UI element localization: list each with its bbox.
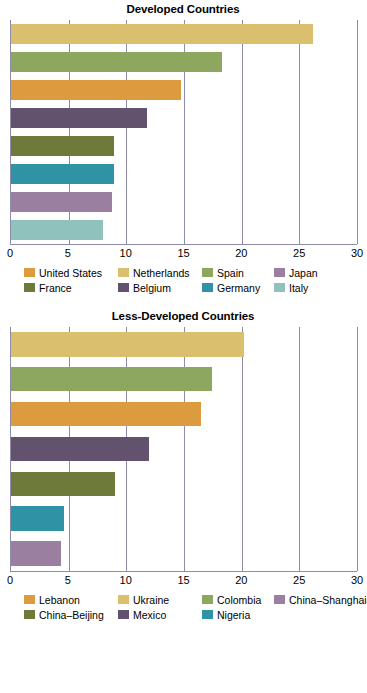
legend-swatch-icon (274, 283, 285, 292)
panel-spacer (0, 295, 366, 307)
legend-item-ukraine[interactable]: Ukraine (118, 594, 169, 606)
bar-japan (11, 108, 147, 128)
legend-swatch-icon (202, 595, 213, 604)
legend-label: Colombia (217, 594, 261, 606)
bar-series-developed (11, 20, 357, 244)
bar-colombia (11, 367, 212, 391)
bar-belgium (11, 192, 112, 212)
legend-label: Spain (217, 267, 244, 279)
bar-series-less-developed (11, 327, 357, 571)
legend-item-lebanon[interactable]: Lebanon (24, 594, 80, 606)
legend-item-united-states[interactable]: United States (24, 267, 102, 279)
x-tick-label: 20 (235, 246, 247, 260)
x-tick-label: 0 (7, 246, 13, 260)
legend-swatch-icon (202, 268, 213, 277)
legend-swatch-icon (24, 268, 35, 277)
legend-item-italy[interactable]: Italy (274, 282, 308, 294)
legend-row: FranceBelgiumGermanyItaly (24, 280, 360, 295)
legend-item-mexico[interactable]: Mexico (118, 609, 166, 621)
legend-item-nigeria[interactable]: Nigeria (202, 609, 250, 621)
legend-swatch-icon (202, 610, 213, 619)
legend-item-netherlands[interactable]: Netherlands (118, 267, 190, 279)
bar-ukraine (11, 332, 244, 356)
plot-canvas-developed (10, 20, 357, 244)
legend-item-japan[interactable]: Japan (274, 267, 318, 279)
bar-spain (11, 52, 222, 72)
legend-swatch-icon (202, 283, 213, 292)
legend-label: China–Shanghai (289, 594, 367, 606)
x-tick-label: 25 (293, 246, 305, 260)
legend-swatch-icon (274, 595, 285, 604)
chart-title-less-developed: Less-Developed Countries (0, 307, 366, 327)
bar-italy (11, 220, 103, 240)
legend-item-china-shanghai[interactable]: China–Shanghai (274, 594, 367, 606)
legend-item-spain[interactable]: Spain (202, 267, 244, 279)
bar-row (11, 536, 357, 571)
legend-label: Belgium (133, 282, 171, 294)
bar-row (11, 397, 357, 432)
legend-item-germany[interactable]: Germany (202, 282, 260, 294)
plot-area-developed (10, 20, 357, 244)
legend-swatch-icon (118, 595, 129, 604)
legend-label: France (39, 282, 72, 294)
legend-developed: United StatesNetherlandsSpainJapanFrance… (0, 265, 366, 295)
plot-canvas-less-developed (10, 327, 357, 571)
legend-swatch-icon (24, 610, 35, 619)
legend-label: China–Beijing (39, 609, 104, 621)
x-tick-label: 25 (293, 573, 305, 587)
x-tick-label: 15 (177, 246, 189, 260)
x-tick-label: 10 (120, 246, 132, 260)
x-tick-label: 15 (177, 573, 189, 587)
bar-row (11, 20, 357, 48)
bar-france (11, 136, 114, 156)
legend-label: Nigeria (217, 609, 250, 621)
gridline (357, 20, 358, 244)
x-axis-labels-less-developed: 051015202530 (10, 572, 357, 589)
legend-label: Netherlands (133, 267, 190, 279)
gridline (357, 327, 358, 571)
legend-item-china-beijing[interactable]: China–Beijing (24, 609, 104, 621)
x-tick-label: 30 (351, 573, 363, 587)
legend-label: Lebanon (39, 594, 80, 606)
x-tick-label: 5 (65, 573, 71, 587)
bar-china-shanghai (11, 541, 61, 565)
chart-title-developed: Developed Countries (0, 0, 366, 20)
bar-germany (11, 164, 114, 184)
legend-row: China–BeijingMexicoNigeria (24, 607, 360, 622)
chart-panel-less-developed: Less-Developed Countries 051015202530 Le… (0, 307, 366, 622)
plot-area-less-developed (10, 327, 357, 571)
legend-label: Mexico (133, 609, 166, 621)
bar-row (11, 48, 357, 76)
bar-row (11, 188, 357, 216)
bar-row (11, 160, 357, 188)
bar-row (11, 216, 357, 244)
legend-item-colombia[interactable]: Colombia (202, 594, 261, 606)
bar-china-beijing (11, 472, 115, 496)
legend-item-belgium[interactable]: Belgium (118, 282, 171, 294)
bar-nigeria (11, 506, 64, 530)
legend-label: United States (39, 267, 102, 279)
legend-label: Italy (289, 282, 308, 294)
bar-netherlands (11, 24, 313, 44)
bar-row (11, 432, 357, 467)
legend-less-developed: LebanonUkraineColombiaChina–ShanghaiChin… (0, 592, 366, 622)
bar-united-states (11, 80, 181, 100)
x-tick-label: 10 (120, 573, 132, 587)
bar-row (11, 132, 357, 160)
x-tick-label: 5 (65, 246, 71, 260)
legend-swatch-icon (274, 268, 285, 277)
legend-swatch-icon (24, 595, 35, 604)
legend-swatch-icon (118, 268, 129, 277)
legend-swatch-icon (118, 610, 129, 619)
legend-row: United StatesNetherlandsSpainJapan (24, 265, 360, 280)
legend-label: Japan (289, 267, 318, 279)
chart-panel-developed: Developed Countries 051015202530 United … (0, 0, 366, 295)
bar-row (11, 501, 357, 536)
x-tick-label: 30 (351, 246, 363, 260)
bar-row (11, 76, 357, 104)
legend-row: LebanonUkraineColombiaChina–Shanghai (24, 592, 360, 607)
legend-label: Ukraine (133, 594, 169, 606)
legend-item-france[interactable]: France (24, 282, 72, 294)
x-axis-labels-developed: 051015202530 (10, 245, 357, 262)
